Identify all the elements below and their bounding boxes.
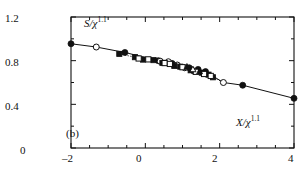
x-tick-label-2: 0 (136, 153, 142, 164)
data-point-filled-circle (122, 49, 128, 55)
x-axis-title: X/χ1.1 (236, 117, 260, 128)
x-tick-label-1: –2 (62, 153, 73, 164)
y-tick-label-3: 0.4 (5, 101, 19, 112)
axis-ticks (71, 17, 294, 148)
data-point-open-circle (93, 44, 99, 50)
y-tick-label-2: 0.8 (5, 57, 19, 68)
data-point-filled-square (117, 51, 122, 56)
y-axis-title: S/χ1.1 (84, 18, 107, 29)
curve-solid-guide-line (71, 44, 294, 99)
x-axis-title-numerator: X (236, 116, 243, 128)
panel-label: (b) (66, 128, 79, 139)
x-tick-label-4: 4 (288, 153, 294, 164)
plot-canvas (0, 0, 304, 171)
y-tick-label-4: 0 (20, 145, 26, 156)
data-point-open-square (162, 60, 167, 65)
x-tick-label-3: 2 (212, 153, 218, 164)
data-point-open-square (146, 57, 151, 62)
x-axis-title-exponent: 1.1 (251, 114, 260, 123)
guide-curves (71, 44, 294, 99)
data-point-filled-circle (291, 95, 297, 101)
axes-frame (71, 17, 294, 148)
data-point-open-square (167, 61, 172, 66)
data-point-filled-square (151, 58, 156, 63)
data-points (68, 41, 297, 102)
data-point-open-square (208, 73, 213, 78)
y-axis-title-exponent: 1.1 (97, 15, 106, 24)
data-point-open-circle (220, 80, 226, 86)
figure-panel-b: 1.2 0.8 0.4 0 –2 0 2 4 S/χ1.1 X/χ1.1 (b) (0, 0, 304, 171)
data-point-filled-circle (240, 82, 246, 88)
y-tick-label-1: 1.2 (5, 13, 19, 24)
data-point-filled-circle (68, 41, 74, 47)
data-point-open-square (136, 56, 141, 61)
